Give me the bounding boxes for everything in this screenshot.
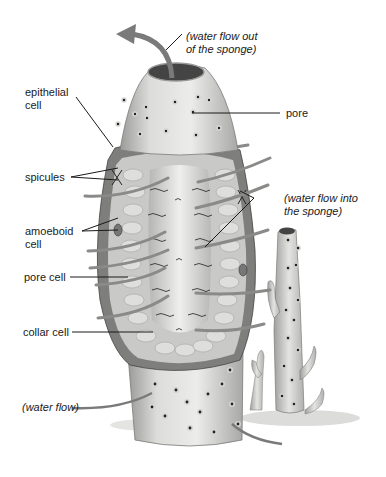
label-line: amoeboid: [25, 225, 73, 238]
label-line: of the sponge): [186, 43, 258, 56]
label-amoeboid-cell: amoeboid cell: [25, 225, 73, 251]
label-epithelial-cell: epithelial cell: [25, 86, 68, 112]
label-pore-cell: pore cell: [24, 271, 66, 284]
label-line: epithelial: [25, 86, 68, 99]
sponge-top-osculum: [116, 63, 238, 155]
label-water-flow-out: (water flow out of the sponge): [186, 30, 258, 56]
sponge-diagram: (water flow out of the sponge) epithelia…: [0, 0, 386, 477]
main-sponge-cutaway: [85, 139, 270, 370]
label-water-flow-into: (water flow into the sponge): [284, 192, 358, 218]
label-water-flow: (water flow): [22, 401, 79, 414]
tall-sponge: [268, 228, 316, 414]
label-line: cell: [25, 99, 68, 112]
label-line: the sponge): [284, 205, 358, 218]
label-line: (water flow out: [186, 30, 258, 43]
label-line: (water flow into: [284, 192, 358, 205]
label-line: cell: [25, 238, 73, 251]
label-spicules: spicules: [25, 171, 65, 184]
label-collar-cell: collar cell: [23, 326, 69, 339]
label-pore: pore: [286, 107, 308, 120]
